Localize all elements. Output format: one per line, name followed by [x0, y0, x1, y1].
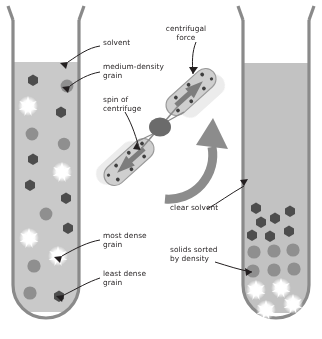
rotor-hub — [149, 118, 171, 137]
left-tube-rim-right — [79, 6, 84, 20]
label-medium-density-grain: medium-density grain — [103, 62, 164, 81]
leader-solvent — [68, 46, 100, 62]
right-tube-rim-left — [238, 6, 243, 20]
spin-direction-arrow — [165, 118, 228, 199]
label-centrifugal-force: centrifugal force — [150, 24, 222, 43]
leader-arrowheads — [54, 62, 252, 302]
label-least-dense-grain: least dense grain — [103, 269, 146, 288]
label-spin-of-centrifuge: spin of centrifuge — [103, 95, 141, 114]
label-solvent: solvent — [103, 38, 130, 47]
label-clear-solvent: clear solvent — [170, 203, 218, 212]
right-tube-rim-right — [309, 6, 314, 20]
left-tube-rim-left — [8, 6, 13, 20]
left-test-tube — [8, 6, 84, 318]
label-most-dense-grain: most dense grain — [103, 231, 147, 250]
centrifuge-diagram: solvent medium-density grain spin of cen… — [0, 0, 322, 339]
centrifuge-rotor — [92, 64, 230, 199]
label-solids-sorted-by-density: solids sorted by density — [170, 245, 218, 264]
diagram-canvas — [0, 0, 322, 339]
